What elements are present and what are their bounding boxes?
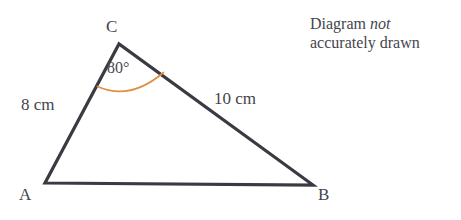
vertex-label-b: B [318, 186, 329, 203]
side-length-label-cb: 10 cm [214, 90, 256, 107]
note-line-1-prefix: Diagram [310, 15, 370, 32]
side-length-label-ac: 8 cm [21, 96, 55, 113]
angle-measure-label-c: 80° [107, 60, 129, 76]
vertex-label-c: C [106, 18, 117, 35]
diagram-note: Diagram not accurately drawn [310, 14, 420, 52]
note-line-1: Diagram not [310, 14, 420, 33]
note-line-2: accurately drawn [310, 33, 420, 52]
diagram-canvas: A B C 8 cm 10 cm 80° Diagram not accurat… [0, 0, 461, 220]
triangle-outline [45, 44, 313, 185]
vertex-label-a: A [19, 186, 31, 203]
note-line-1-emphasis: not [370, 15, 390, 32]
